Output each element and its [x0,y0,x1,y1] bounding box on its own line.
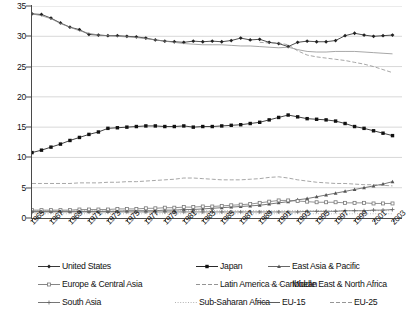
x-axis-tick-mark [70,219,71,222]
data-point-marker [47,265,51,269]
data-point-marker [182,206,185,209]
x-axis-tick-mark [241,219,242,222]
data-point-marker [381,132,384,135]
data-point-marker [315,201,318,204]
data-point-marker [343,34,347,38]
legend-label: Europe & Central Asia [62,280,142,289]
data-point-marker [391,180,395,184]
x-axis-tick-mark [165,219,166,222]
data-point-marker [220,40,224,44]
data-point-marker [305,39,309,43]
data-point-marker [344,201,347,204]
legend-swatch [196,279,218,290]
data-point-marker [134,35,138,39]
data-point-marker [201,40,205,44]
legend-item[interactable]: South Asia [38,294,101,311]
data-point-marker [267,118,270,121]
x-axis: 1965196719691971197319751977197919811983… [0,219,408,255]
legend-swatch [268,279,290,290]
x-axis-tick-mark [336,219,337,222]
x-axis-tick-mark [355,219,356,222]
data-point-marker [258,201,261,204]
series-line [260,42,393,72]
data-point-marker [353,125,356,128]
y-axis-tick-mark [26,66,31,67]
x-axis-tick-mark [51,219,52,222]
data-point-marker [343,122,346,125]
y-axis: 05101520253035 [0,0,30,224]
data-point-marker [116,126,119,129]
data-point-marker [363,201,366,204]
data-point-marker [49,145,52,148]
x-axis-tick-mark [32,219,33,222]
legend-label: Japan [220,262,242,271]
data-point-marker [239,123,242,126]
legend-item[interactable]: Middle East & North Africa [268,276,387,293]
data-point-marker [229,39,233,43]
data-point-marker [220,210,224,214]
y-axis-tick-mark [26,157,31,158]
data-point-marker [32,151,34,154]
legend-swatch [38,261,60,272]
data-point-marker [372,208,376,212]
data-point-marker [40,148,43,151]
data-point-marker [372,129,375,132]
legend-swatch [38,297,60,308]
legend-swatch [268,261,290,272]
y-axis-tick-mark [26,127,31,128]
data-point-marker [59,142,62,145]
y-axis-tick-mark [26,36,31,37]
data-point-marker [48,283,51,286]
data-point-marker [306,200,309,203]
legend-item[interactable]: EU-15 [258,294,305,311]
legend-label: EU-25 [354,298,377,307]
legend-item[interactable]: Japan [196,258,242,275]
x-axis-tick-mark [260,219,261,222]
data-point-marker [201,205,204,208]
data-point-marker [163,125,166,128]
data-point-marker [324,118,327,121]
y-axis-tick-label: 10 [17,153,26,162]
legend-row: Europe & Central AsiaLatin America & Car… [0,276,408,293]
data-point-marker [381,34,385,38]
data-point-marker [391,134,394,137]
x-axis-tick-mark [393,219,394,222]
data-point-marker [125,125,128,128]
data-point-marker [382,202,385,205]
data-point-marker [172,40,176,44]
y-axis-tick-label: 15 [17,123,26,132]
series-line [32,14,393,54]
legend-item[interactable]: EU-25 [330,294,377,311]
data-point-marker [277,199,280,202]
y-axis-tick-label: 35 [17,2,26,11]
x-axis-tick-mark [222,219,223,222]
plot-area [32,6,402,218]
legend-label: Middle East & North Africa [292,280,387,289]
legend-item[interactable]: Europe & Central Asia [38,276,142,293]
legend-swatch [330,297,352,308]
series-latin-america-caribbean [32,177,393,186]
data-point-marker [353,209,357,213]
x-axis-tick-mark [374,219,375,222]
data-point-marker [296,200,299,203]
legend-swatch [258,297,280,308]
legend-item[interactable]: United States [38,258,111,275]
data-point-marker [334,119,337,122]
data-point-marker [68,139,71,142]
data-point-marker [144,207,147,210]
x-axis-tick-mark [298,219,299,222]
legend-item[interactable]: Sub-Saharan Africa [175,294,270,311]
x-axis-tick-mark [317,219,318,222]
data-point-marker [267,40,271,44]
series-eu-25 [260,42,393,72]
data-point-marker [97,130,100,133]
data-point-marker [78,136,81,139]
legend-row: United StatesJapanEast Asia & Pacific [0,258,408,275]
series-line [32,177,393,186]
data-point-marker [230,124,233,127]
legend-item[interactable]: East Asia & Pacific [268,258,360,275]
y-axis-tick-label: 30 [17,32,26,41]
data-point-marker [191,39,195,43]
y-axis-tick-mark [26,187,31,188]
data-point-marker [192,125,195,128]
